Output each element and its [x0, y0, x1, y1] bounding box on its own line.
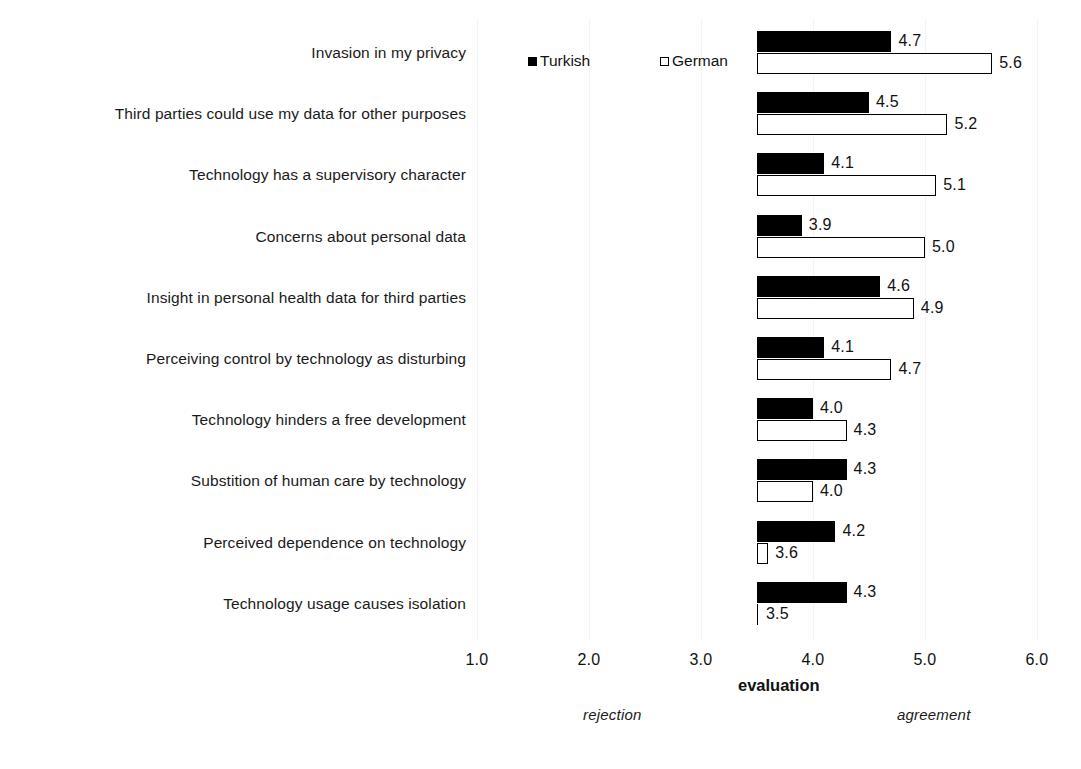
bar-german[interactable]: [757, 481, 813, 502]
x-tick-label: 4.0: [783, 650, 843, 669]
x-tick-label: 1.0: [447, 650, 507, 669]
bar-value-label-turkish: 4.1: [831, 336, 854, 357]
category-label: Invasion in my privacy: [6, 44, 466, 62]
bar-turkish[interactable]: [757, 276, 880, 297]
bar-value-label-turkish: 4.5: [876, 91, 899, 112]
bar-value-label-turkish: 4.2: [842, 520, 865, 541]
x-tick-label: 3.0: [671, 650, 731, 669]
bar-turkish[interactable]: [757, 582, 847, 603]
gridline: [589, 20, 590, 640]
anchor-note-agreement: agreement: [897, 706, 971, 723]
bar-value-label-german: 4.3: [854, 419, 877, 440]
bar-turkish[interactable]: [757, 153, 824, 174]
bar-german[interactable]: [757, 298, 914, 319]
bar-value-label-german: 4.7: [898, 358, 921, 379]
bar-value-label-german: 5.2: [954, 113, 977, 134]
category-label: Substition of human care by technology: [6, 472, 466, 490]
legend-swatch-filled-square-icon: [528, 57, 537, 66]
gridline: [477, 20, 478, 640]
x-tick-label: 5.0: [895, 650, 955, 669]
category-label: Insight in personal health data for thir…: [6, 289, 466, 307]
legend-label-turkish: Turkish: [540, 52, 590, 69]
plot-area: 4.75.64.55.24.15.13.95.04.64.94.14.74.04…: [757, 0, 1081, 640]
bar-turkish[interactable]: [757, 31, 891, 52]
category-label: Perceiving control by technology as dist…: [6, 350, 466, 368]
bar-value-label-german: 3.5: [766, 603, 789, 624]
bar-german[interactable]: [757, 175, 936, 196]
bar-value-label-turkish: 4.6: [887, 275, 910, 296]
legend-item-turkish[interactable]: Turkish: [528, 52, 590, 70]
bar-turkish[interactable]: [757, 337, 824, 358]
category-label: Third parties could use my data for othe…: [6, 105, 466, 123]
legend-item-german[interactable]: German: [660, 52, 728, 70]
bar-value-label-turkish: 4.3: [854, 458, 877, 479]
bar-turkish[interactable]: [757, 398, 813, 419]
bar-turkish[interactable]: [757, 521, 835, 542]
bar-value-label-turkish: 4.7: [898, 30, 921, 51]
bar-value-label-german: 5.1: [943, 174, 966, 195]
x-tick-label: 2.0: [559, 650, 619, 669]
bar-value-label-turkish: 3.9: [809, 214, 832, 235]
category-label: Technology has a supervisory character: [6, 166, 466, 184]
bar-value-label-german: 5.6: [999, 52, 1022, 73]
legend-label-german: German: [672, 52, 728, 69]
legend-swatch-open-square-icon: [660, 57, 669, 66]
category-label: Technology hinders a free development: [6, 411, 466, 429]
bar-value-label-german: 5.0: [932, 236, 955, 257]
bar-value-label-turkish: 4.3: [854, 581, 877, 602]
bar-value-label-turkish: 4.1: [831, 152, 854, 173]
bar-german[interactable]: [757, 543, 768, 564]
category-label: Perceived dependence on technology: [6, 534, 466, 552]
bar-chart: Invasion in my privacyThird parties coul…: [0, 0, 1081, 769]
gridline: [701, 20, 702, 640]
bar-german[interactable]: [757, 420, 847, 441]
bar-german[interactable]: [757, 114, 947, 135]
bar-turkish[interactable]: [757, 459, 847, 480]
bar-value-label-german: 3.6: [775, 542, 798, 563]
bar-value-label-german: 4.9: [921, 297, 944, 318]
axis-title: evaluation: [738, 676, 820, 695]
category-label: Concerns about personal data: [6, 228, 466, 246]
bar-german[interactable]: [757, 53, 992, 74]
bar-turkish[interactable]: [757, 215, 802, 236]
bar-german[interactable]: [757, 359, 891, 380]
bar-german[interactable]: [757, 604, 758, 625]
bar-value-label-turkish: 4.0: [820, 397, 843, 418]
category-label: Technology usage causes isolation: [6, 595, 466, 613]
bar-german[interactable]: [757, 237, 925, 258]
x-tick-label: 6.0: [1007, 650, 1067, 669]
anchor-note-rejection: rejection: [583, 706, 642, 723]
bar-value-label-german: 4.0: [820, 480, 843, 501]
bar-turkish[interactable]: [757, 92, 869, 113]
